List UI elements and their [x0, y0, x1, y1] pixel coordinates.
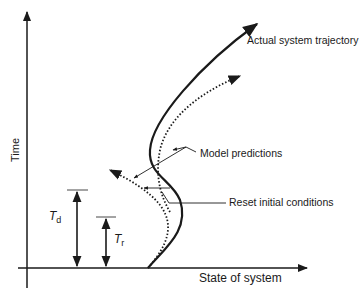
td-label: Td — [49, 210, 61, 225]
x-axis-label: State of system — [199, 272, 282, 284]
td-sub: d — [56, 215, 61, 225]
reset-conditions-label: Reset initial conditions — [229, 197, 333, 208]
reset-leader-line — [162, 192, 226, 203]
tr-sub: r — [121, 238, 124, 248]
actual-trajectory-curve — [148, 24, 257, 268]
y-axis-label: Time — [10, 138, 21, 162]
model-prediction-upper-curve — [158, 76, 240, 212]
actual-trajectory-label: Actual system trajectory — [247, 35, 358, 46]
tr-label: Tr — [114, 233, 124, 248]
model-predictions-label: Model predictions — [200, 148, 282, 159]
model-leader-line-2 — [134, 147, 186, 178]
